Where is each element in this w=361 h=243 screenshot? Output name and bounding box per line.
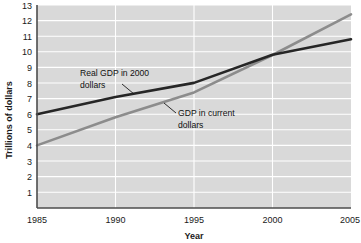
y-tick-label: 13 (22, 1, 32, 11)
annotation-real-gdp-line2: dollars (80, 80, 105, 90)
x-axis-title: Year (184, 231, 204, 241)
y-tick-label: 2 (27, 172, 32, 182)
y-tick-label: 12 (22, 16, 32, 26)
x-tick-label: 1990 (105, 215, 125, 225)
y-tick-label: 10 (22, 47, 32, 57)
y-tick-label: 4 (27, 141, 32, 151)
annotation-real-gdp-line1: Real GDP in 2000 (80, 68, 149, 78)
x-tick-label: 1995 (184, 215, 204, 225)
y-tick-label: 3 (27, 157, 32, 167)
x-tick-label: 2005 (340, 215, 360, 225)
gdp-line-chart-figure: 13 12 11 10 9 8 7 6 5 4 3 2 1 1985 1990 … (0, 0, 361, 243)
x-tick-label: 2000 (262, 215, 282, 225)
y-tick-label: 6 (27, 110, 32, 120)
y-tick-label: 7 (27, 94, 32, 104)
y-tick-label: 5 (27, 125, 32, 135)
chart-svg: 13 12 11 10 9 8 7 6 5 4 3 2 1 1985 1990 … (0, 0, 361, 243)
y-tick-label: 8 (27, 79, 32, 89)
y-tick-label: 1 (27, 188, 32, 198)
y-tick-label: 11 (23, 32, 32, 42)
annotation-current-gdp-line1: GDP in current (178, 108, 235, 118)
annotation-current-gdp-line2: dollars (178, 120, 203, 130)
y-tick-label: 9 (27, 63, 32, 73)
y-axis-title: Trillions of dollars (4, 81, 14, 159)
x-tick-label: 1985 (27, 215, 47, 225)
